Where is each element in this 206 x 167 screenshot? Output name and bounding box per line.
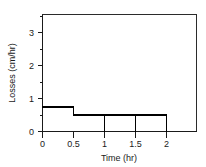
chart-figure: 0 1 2 3 0 0.5 1 1.5 2 Time (hr) Los [0, 0, 206, 167]
x-tick-label-1: 1 [102, 139, 107, 149]
y-tick-label-0: 0 [29, 127, 34, 137]
x-axis-title: Time (hr) [101, 153, 137, 163]
x-tick-label-1p5: 1.5 [129, 139, 142, 149]
y-tick-label-2: 2 [29, 61, 34, 71]
y-axis: 0 1 2 3 [29, 15, 43, 138]
frame-box [43, 15, 197, 132]
x-tick-label-0: 0 [40, 139, 45, 149]
x-tick-label-0p5: 0.5 [67, 139, 80, 149]
step-series [43, 107, 167, 132]
y-axis-title: Losses (cm/hr) [7, 43, 17, 103]
y-tick-label-3: 3 [29, 28, 34, 38]
plot-frame [43, 15, 197, 132]
x-axis: 0 0.5 1 1.5 2 [40, 132, 197, 150]
x-tick-label-2: 2 [164, 139, 169, 149]
y-tick-label-1: 1 [29, 94, 34, 104]
losses-step-chart: 0 1 2 3 0 0.5 1 1.5 2 Time (hr) Los [0, 0, 206, 167]
